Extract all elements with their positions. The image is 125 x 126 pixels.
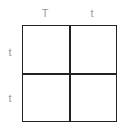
cell-r2-c1 bbox=[23, 74, 69, 121]
row-label-2: t bbox=[4, 93, 16, 104]
cell-r2-c2 bbox=[70, 74, 116, 121]
row-label-1: t bbox=[4, 47, 16, 58]
cell-r1-c2 bbox=[70, 26, 116, 73]
cell-r1-c1 bbox=[23, 26, 69, 73]
punnett-grid bbox=[22, 25, 117, 122]
col-label-2: t bbox=[86, 8, 98, 19]
col-label-1: T bbox=[39, 8, 51, 19]
